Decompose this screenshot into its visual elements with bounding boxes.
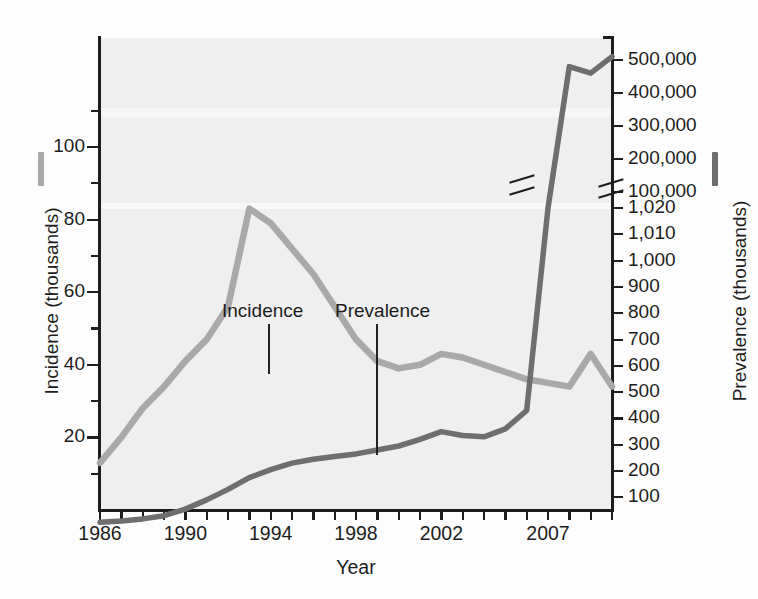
incidence-legend-swatch <box>38 152 44 186</box>
annotation-prevalence: Prevalence <box>335 300 430 322</box>
annotation-incidence: Incidence <box>222 300 303 322</box>
chart-figure: 20406080100 500,000400,000300,000200,000… <box>0 0 758 599</box>
left-axis-title: Incidence (thousands) <box>41 181 63 421</box>
annotation-prevalence-leader-line <box>376 324 378 455</box>
right-axis-title: Prevalence (thousands) <box>729 181 751 421</box>
prevalence-legend-swatch <box>712 152 718 186</box>
x-axis-title: Year <box>0 556 712 579</box>
annotation-incidence-leader-line <box>268 324 270 374</box>
prevalence-line <box>100 57 612 523</box>
